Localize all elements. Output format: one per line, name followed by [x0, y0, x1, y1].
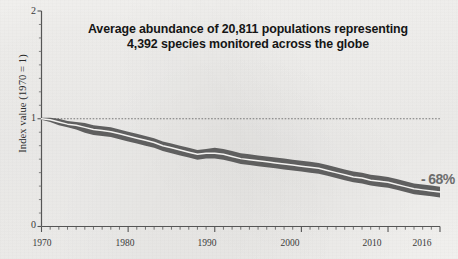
y-tick-label-1: 1 [18, 112, 36, 123]
x-tick-label-1990: 1990 [187, 238, 227, 248]
end-value-annotation: - 68% [421, 171, 455, 187]
y-tick-label-2: 2 [18, 5, 36, 16]
y-tick-label-0: 0 [18, 219, 36, 230]
x-tick-label-1970: 1970 [22, 238, 62, 248]
chart-figure: Average abundance of 20,811 populations … [0, 0, 458, 259]
x-tick-label-2000: 2000 [270, 238, 310, 248]
x-tick-label-1980: 1980 [105, 238, 145, 248]
chart-title-line-2: 4,392 species monitored across the globe [52, 37, 444, 52]
x-axis-ticks [42, 227, 441, 233]
y-axis-label: Index value (1970 = 1) [17, 36, 28, 172]
confidence-band [42, 118, 441, 198]
x-tick-label-2016: 2016 [402, 238, 442, 248]
chart-title: Average abundance of 20,811 populations … [52, 22, 444, 52]
x-tick-label-2010: 2010 [352, 238, 392, 248]
chart-title-line-1: Average abundance of 20,811 populations … [52, 22, 444, 37]
